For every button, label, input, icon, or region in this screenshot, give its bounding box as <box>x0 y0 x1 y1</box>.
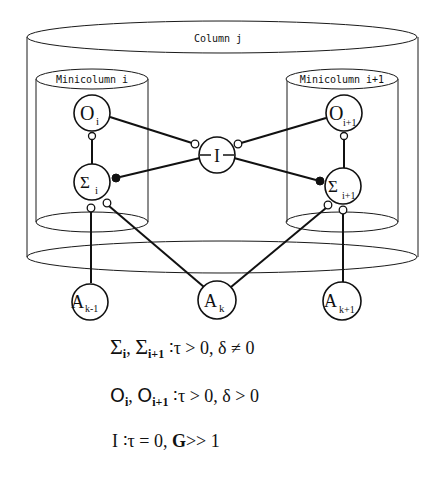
svg-text:k+1: k+1 <box>339 304 355 315</box>
node-o-i-plus-1: O i+1 <box>326 95 362 131</box>
svg-text:k-1: k-1 <box>85 303 98 314</box>
svg-text:A: A <box>324 291 337 311</box>
column-label: Column j <box>194 33 242 44</box>
synapse-open-icon <box>234 140 242 148</box>
node-o-i: O i <box>74 95 110 131</box>
minicolumn-left-label: Minicolumn i <box>56 74 128 85</box>
svg-text:O: O <box>80 102 94 124</box>
svg-text:I: I <box>214 146 220 166</box>
svg-text:A: A <box>204 291 217 311</box>
synapse-open-icon <box>191 140 199 148</box>
node-inhibitory-i: I <box>199 137 235 173</box>
formula-output: Oi, Oi+1 ∶τ > 0, δ > 0 <box>110 384 259 410</box>
synapse-filled-icon <box>316 177 324 185</box>
synapse-open-icon <box>87 204 95 212</box>
svg-text:i: i <box>95 184 98 196</box>
node-sigma-i-plus-1: Σ i+1 <box>325 168 361 204</box>
synapse-open-icon <box>324 201 332 209</box>
node-sigma-i: Σ i <box>74 164 110 200</box>
formula-sigma: Σi, Σi+1 ∶τ > 0, δ ≠ 0 <box>110 334 254 362</box>
svg-text:i: i <box>96 115 99 127</box>
svg-text:O: O <box>329 102 343 124</box>
synapse-open-icon <box>103 199 111 207</box>
node-a-k: A k <box>198 281 236 319</box>
synapse-filled-icon <box>112 174 120 182</box>
svg-text:i+1: i+1 <box>343 117 356 128</box>
svg-text:k: k <box>219 302 225 314</box>
synapse-open-icon <box>339 206 347 214</box>
minicolumn-right-label: Minicolumn i+1 <box>300 74 384 85</box>
synapse-open-icon <box>341 133 348 140</box>
synapse-open-icon <box>89 133 96 140</box>
svg-text:Σ: Σ <box>328 177 338 196</box>
svg-text:A: A <box>71 292 84 312</box>
node-a-k-plus-1: A k+1 <box>323 282 361 320</box>
node-a-k-minus-1: A k-1 <box>71 284 108 320</box>
svg-text:i+1: i+1 <box>342 190 355 201</box>
formula-inhibitory: I ∶τ = 0, G>> 1 <box>112 430 220 452</box>
svg-text:Σ: Σ <box>80 173 90 192</box>
